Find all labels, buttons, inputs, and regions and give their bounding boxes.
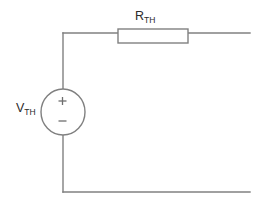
resistor-body: [118, 29, 188, 43]
voltage-source-label: VTH: [16, 101, 36, 117]
resistor-rth: [118, 29, 188, 43]
resistor-label-subscript: TH: [144, 15, 155, 25]
schematic-svg: VTH RTH: [0, 0, 269, 203]
voltage-source-vth: [41, 89, 85, 135]
voltage-source-label-subscript: TH: [24, 107, 35, 117]
resistor-label-main: R: [135, 9, 144, 23]
voltage-source-circle: [41, 89, 85, 135]
circuit-diagram-canvas: VTH RTH: [0, 0, 269, 203]
wire-group: [63, 33, 250, 192]
resistor-label: RTH: [135, 9, 155, 25]
